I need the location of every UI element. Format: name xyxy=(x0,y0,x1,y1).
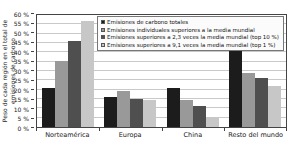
y-tick-label: 40 % xyxy=(14,49,29,56)
legend-marker-icon xyxy=(101,28,105,32)
legend-marker-icon xyxy=(101,43,105,47)
y-tick-label: 5 % xyxy=(18,115,29,122)
y-tick-mark xyxy=(31,23,34,24)
x-category-label-0: Norteamérica xyxy=(36,131,99,139)
bar-series-1 xyxy=(55,61,68,127)
legend-marker-icon xyxy=(101,20,105,24)
bar-series-1 xyxy=(117,91,130,127)
x-axis-category-labels: NorteaméricaEuropaChinaResto del mundo xyxy=(36,131,287,139)
x-category-label-3: Resto del mundo xyxy=(224,131,287,139)
legend-row-0: Emisiones de carbono totales xyxy=(101,19,279,25)
y-axis-tick-labels: 0 %5 %10 %15 %20 %25 %30 %35 %40 %45 %50… xyxy=(0,14,34,128)
y-tick-mark xyxy=(31,99,34,100)
bar-series-0 xyxy=(42,88,55,127)
y-tick-mark xyxy=(31,70,34,71)
legend-row-2: Emisiones superiores a 2,3 veces la medi… xyxy=(101,34,279,40)
bar-series-0 xyxy=(104,97,117,127)
bar-series-3 xyxy=(268,86,281,127)
bar-chart-figure: Peso de cada región en el total de emisi… xyxy=(0,0,290,146)
bar-group-0 xyxy=(37,15,99,127)
x-category-label-2: China xyxy=(162,131,225,139)
y-tick-label: 20 % xyxy=(14,87,29,94)
bar-series-2 xyxy=(255,78,268,127)
y-tick-label: 50 % xyxy=(14,30,29,37)
y-tick-label: 10 % xyxy=(14,106,29,113)
y-tick-mark xyxy=(31,13,34,14)
bar-series-3 xyxy=(81,21,94,127)
bar-series-0 xyxy=(167,88,180,127)
bar-series-1 xyxy=(242,73,255,127)
y-tick-label: 15 % xyxy=(14,96,29,103)
y-tick-label: 45 % xyxy=(14,39,29,46)
y-tick-mark xyxy=(31,108,34,109)
legend-marker-icon xyxy=(101,35,105,39)
legend: Emisiones de carbono totalesEmisiones in… xyxy=(97,16,284,51)
y-tick-label: 30 % xyxy=(14,68,29,75)
y-tick-label: 0 % xyxy=(18,125,29,132)
legend-label: Emisiones superiores a 2,3 veces la medi… xyxy=(107,34,279,40)
y-tick-label: 25 % xyxy=(14,77,29,84)
y-tick-label: 60 % xyxy=(14,11,29,18)
y-tick-mark xyxy=(31,89,34,90)
y-tick-mark xyxy=(31,42,34,43)
legend-row-1: Emisiones individuales superiores a la m… xyxy=(101,27,279,33)
y-tick-mark xyxy=(31,51,34,52)
bar-series-3 xyxy=(206,117,219,127)
bar-series-1 xyxy=(180,100,193,127)
y-tick-mark xyxy=(31,61,34,62)
bar-series-2 xyxy=(193,106,206,127)
y-tick-mark xyxy=(31,32,34,33)
legend-row-3: Emisiones superiores a 9,1 veces la medi… xyxy=(101,42,279,48)
y-tick-mark xyxy=(31,118,34,119)
x-category-label-1: Europa xyxy=(99,131,162,139)
legend-label: Emisiones de carbono totales xyxy=(107,19,188,25)
bar-series-3 xyxy=(143,100,156,127)
bar-series-0 xyxy=(229,50,242,127)
y-tick-mark xyxy=(31,127,34,128)
bar-series-2 xyxy=(68,41,81,127)
legend-label: Emisiones individuales superiores a la m… xyxy=(107,27,255,33)
y-tick-label: 35 % xyxy=(14,58,29,65)
plot-area: Emisiones de carbono totalesEmisiones in… xyxy=(36,14,287,128)
y-tick-mark xyxy=(31,80,34,81)
legend-label: Emisiones superiores a 9,1 veces la medi… xyxy=(107,42,275,48)
y-tick-label: 55 % xyxy=(14,20,29,27)
bar-series-2 xyxy=(130,99,143,127)
